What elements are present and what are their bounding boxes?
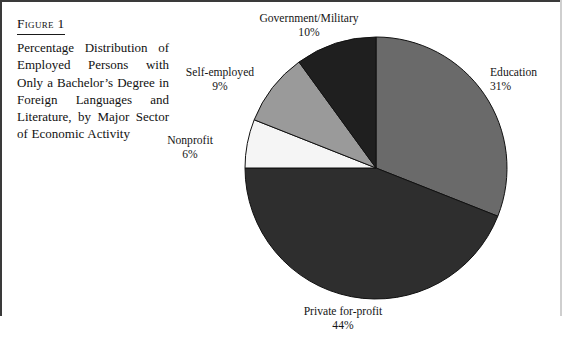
page-edge-left: [0, 0, 2, 316]
figure-page: Figure 1 Percentage Distribution of Empl…: [0, 0, 562, 341]
slice-label-nonprofit: Nonprofit 6%: [130, 134, 250, 162]
slice-label-self-employed-name: Self-employed: [186, 66, 254, 79]
slice-label-self-employed-pct: 9%: [145, 80, 295, 94]
slice-label-government-military-pct: 10%: [219, 26, 399, 40]
slice-label-nonprofit-pct: 6%: [130, 148, 250, 162]
slice-label-private-for-profit: Private for-profit 44%: [253, 305, 433, 333]
page-edge-top: [0, 0, 562, 2]
slice-label-government-military: Government/Military 10%: [219, 12, 399, 40]
slice-label-private-for-profit-pct: 44%: [253, 319, 433, 333]
slice-label-education-pct: 31%: [490, 80, 560, 94]
slice-label-nonprofit-name: Nonprofit: [167, 134, 213, 147]
slice-label-education-name: Education: [490, 66, 537, 79]
slice-label-education: Education 31%: [490, 66, 560, 94]
slice-label-government-military-name: Government/Military: [259, 12, 358, 25]
figure-number: Figure 1: [17, 16, 65, 35]
slice-label-self-employed: Self-employed 9%: [145, 66, 295, 94]
slice-label-private-for-profit-name: Private for-profit: [304, 305, 383, 318]
